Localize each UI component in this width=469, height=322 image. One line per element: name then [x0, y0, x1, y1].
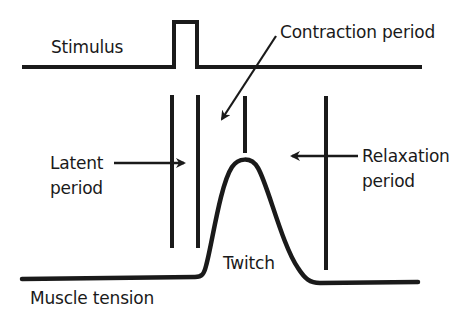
contraction-period-label: Contraction period [280, 21, 435, 43]
twitch-label: Twitch [223, 252, 275, 274]
latent-period-label-line2: period [50, 177, 103, 199]
muscle-twitch-diagram: Stimulus Contraction period Latent perio… [0, 0, 469, 322]
latent-period-label-line1: Latent [50, 152, 103, 174]
contraction-arrow-icon [222, 36, 276, 119]
stimulus-label: Stimulus [51, 36, 123, 58]
muscle-tension-label: Muscle tension [30, 287, 154, 309]
relaxation-period-label-line2: period [362, 170, 415, 192]
relaxation-period-label-line1: Relaxation [362, 145, 450, 167]
